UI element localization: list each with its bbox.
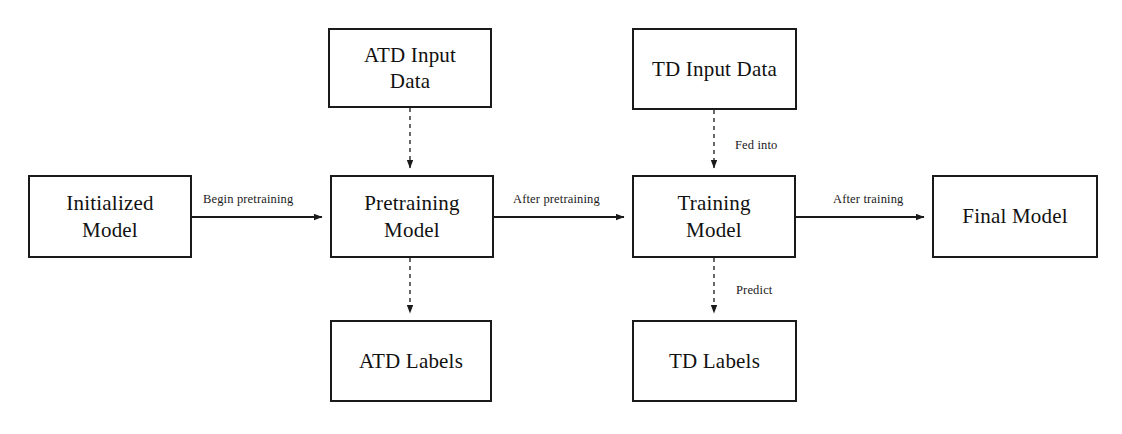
- edge-label-fed-into: Fed into: [735, 138, 778, 153]
- node-td-input-data[interactable]: TD Input Data: [632, 28, 797, 110]
- node-atd-labels[interactable]: ATD Labels: [330, 320, 492, 402]
- flowchart-canvas: Initialized Model ATD Input Data TD Inpu…: [0, 0, 1122, 434]
- node-training-model-label: Training Model: [677, 190, 750, 243]
- node-td-input-data-label: TD Input Data: [652, 56, 777, 82]
- node-td-labels-label: TD Labels: [669, 348, 760, 374]
- node-initialized-model-label: Initialized Model: [66, 190, 153, 243]
- edge-label-after-pretraining: After pretraining: [513, 192, 600, 207]
- edge-label-after-training: After training: [833, 192, 903, 207]
- node-final-model[interactable]: Final Model: [932, 175, 1098, 258]
- node-atd-input-data-label: ATD Input Data: [364, 42, 456, 95]
- node-pretraining-model[interactable]: Pretraining Model: [330, 175, 494, 258]
- edge-label-begin-pretraining: Begin pretraining: [203, 192, 293, 207]
- node-final-model-label: Final Model: [962, 203, 1067, 229]
- node-training-model[interactable]: Training Model: [632, 175, 796, 258]
- node-atd-labels-label: ATD Labels: [359, 348, 463, 374]
- edge-label-predict: Predict: [736, 283, 772, 298]
- node-atd-input-data[interactable]: ATD Input Data: [328, 28, 492, 108]
- node-initialized-model[interactable]: Initialized Model: [28, 175, 192, 258]
- node-pretraining-model-label: Pretraining Model: [364, 190, 460, 243]
- node-td-labels[interactable]: TD Labels: [632, 320, 797, 402]
